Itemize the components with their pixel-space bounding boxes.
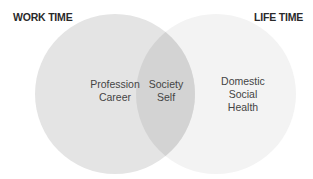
label-line: Social: [198, 88, 288, 101]
label-line: Health: [198, 101, 288, 114]
overlap-label: Society Self: [136, 78, 196, 104]
life-circle-label: Domestic Social Health: [198, 75, 288, 114]
label-line: Domestic: [198, 75, 288, 88]
life-time-heading: LIFE TIME: [254, 11, 303, 23]
label-line: Society: [136, 78, 196, 91]
label-line: Self: [136, 91, 196, 104]
work-time-heading: WORK TIME: [13, 11, 72, 23]
